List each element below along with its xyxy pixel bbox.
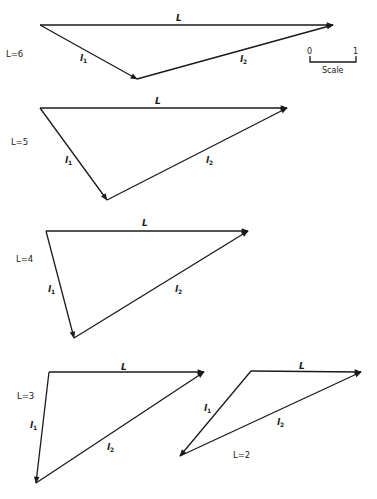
label-l2: l2 xyxy=(107,442,114,453)
label-l2: l2 xyxy=(206,155,213,166)
scale-bar: 0 1 Scale xyxy=(307,47,358,75)
case-label: L=3 xyxy=(17,391,34,401)
label-l1: l1 xyxy=(204,403,211,414)
vector-l1 xyxy=(40,108,107,200)
scale-max-label: 1 xyxy=(353,47,358,56)
case-label: L=6 xyxy=(6,49,23,59)
vector-l2 xyxy=(180,372,361,456)
triangle-L4: LL=4l1l2 xyxy=(16,218,248,338)
vector-L xyxy=(251,371,361,372)
case-label: L=4 xyxy=(16,254,33,264)
label-l2: l2 xyxy=(240,54,247,65)
label-L: L xyxy=(142,218,148,228)
vector-l2 xyxy=(36,372,204,483)
triangle-L2: LL=2l1l2 xyxy=(180,361,361,460)
label-L: L xyxy=(176,13,182,23)
label-l1: l1 xyxy=(48,284,55,295)
label-L: L xyxy=(155,96,161,106)
label-l2: l2 xyxy=(277,417,284,428)
vector-l1 xyxy=(180,371,251,456)
triangle-L3: LL=3l1l2 xyxy=(17,362,204,483)
label-l2: l2 xyxy=(175,284,182,295)
scale-caption: Scale xyxy=(322,66,344,75)
vector-triangle-diagram: LL=6l1l2LL=5l1l2LL=4l1l2LL=3l1l2LL=2l1l2… xyxy=(0,0,377,499)
vector-l1 xyxy=(40,25,137,79)
scale-min-label: 0 xyxy=(307,47,312,56)
case-label: L=5 xyxy=(11,137,28,147)
label-L: L xyxy=(299,361,305,371)
vector-l2 xyxy=(74,231,248,338)
label-l1: l1 xyxy=(30,420,37,431)
label-l1: l1 xyxy=(65,155,72,166)
vector-l1 xyxy=(36,372,49,483)
triangle-L6: LL=6l1l2 xyxy=(6,13,333,79)
vector-l2 xyxy=(137,25,333,79)
triangle-L5: LL=5l1l2 xyxy=(11,96,287,200)
label-L: L xyxy=(121,362,127,372)
case-label: L=2 xyxy=(233,450,250,460)
label-l1: l1 xyxy=(80,53,87,64)
vector-l2 xyxy=(107,108,287,200)
